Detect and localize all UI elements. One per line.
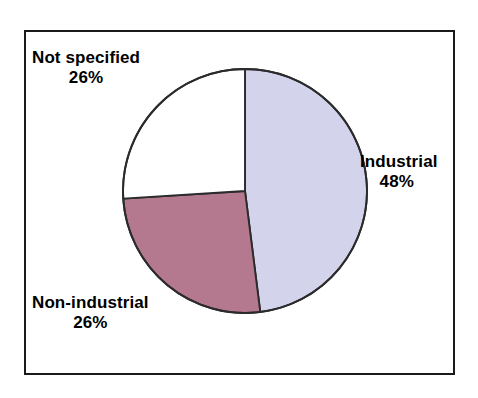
pie-label-not-specified-value: 26%: [32, 68, 140, 88]
pie-label-not-specified-name: Not specified: [32, 48, 140, 68]
pie-label-industrial-name: Industrial: [360, 152, 438, 172]
pie-chart-graphic: [121, 67, 369, 315]
pie-label-non-industrial-name: Non-industrial: [32, 293, 149, 313]
pie-slice-not-specified: [123, 69, 245, 199]
pie-label-non-industrial-value: 26%: [32, 313, 149, 333]
chart-frame: Not specified 26% Industrial 48% Non-ind…: [24, 30, 455, 375]
pie-label-industrial-value: 48%: [360, 172, 438, 192]
pie-label-not-specified: Not specified 26%: [32, 48, 140, 88]
pie-label-non-industrial: Non-industrial 26%: [32, 293, 149, 333]
pie-slice-industrial: [245, 69, 367, 312]
pie-label-industrial: Industrial 48%: [360, 152, 438, 192]
